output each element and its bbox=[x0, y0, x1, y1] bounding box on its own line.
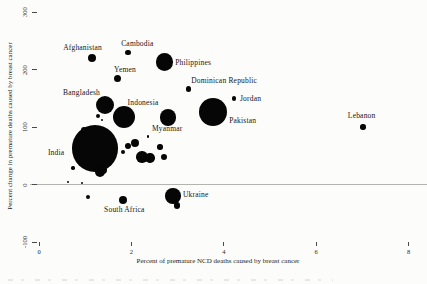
y-tick-label-0: 0 bbox=[21, 183, 28, 186]
bubble-unlabeled-11 bbox=[161, 154, 167, 160]
label-bangladesh: Bangladesh bbox=[63, 89, 100, 97]
bubble-unlabeled-8 bbox=[121, 150, 125, 154]
bubble-unlabeled-7 bbox=[157, 144, 162, 149]
bubble-unlabeled-4 bbox=[147, 135, 150, 138]
bubble-lebanon bbox=[360, 124, 365, 129]
zero-reference-line bbox=[30, 184, 427, 185]
x-tick-label-8: 8 bbox=[407, 248, 410, 255]
x-tick-mark-0 bbox=[39, 242, 40, 246]
bubble-unlabeled-15 bbox=[67, 181, 69, 183]
bubble-unlabeled-17 bbox=[86, 195, 90, 199]
bubble-yemen bbox=[114, 75, 121, 82]
label-india: India bbox=[48, 149, 64, 157]
bubble-india bbox=[72, 125, 119, 172]
bubble-unlabeled-12 bbox=[71, 166, 74, 169]
y-tick-mark-200 bbox=[32, 69, 37, 70]
bubble-unlabeled-6 bbox=[125, 143, 132, 150]
x-tick-label-4: 4 bbox=[222, 248, 225, 255]
bubble-unlabeled-5 bbox=[131, 139, 139, 147]
bubble-myanmar bbox=[160, 109, 177, 126]
label-myanmar: Myanmar bbox=[152, 125, 183, 133]
bubble-chart: Percent change in premature deaths cause… bbox=[0, 0, 427, 284]
y-tick-mark-0 bbox=[32, 184, 37, 185]
x-tick-mark-2 bbox=[131, 242, 132, 246]
cropped-caption-artifact bbox=[8, 279, 333, 281]
x-axis-title: Percent of premature NCD deaths caused b… bbox=[137, 257, 300, 265]
label-south-africa: South Africa bbox=[104, 206, 145, 214]
y-tick-mark-300 bbox=[32, 12, 37, 13]
y-tick-label--100: -100 bbox=[21, 236, 28, 248]
bubble-jordan bbox=[232, 96, 237, 101]
x-tick-label-0: 0 bbox=[37, 248, 40, 255]
y-tick-label-200: 200 bbox=[21, 65, 28, 75]
x-tick-mark-4 bbox=[223, 242, 224, 246]
bubble-pakistan bbox=[199, 98, 227, 126]
label-afghanistan: Afghanistan bbox=[63, 44, 102, 52]
label-pakistan: Pakistan bbox=[229, 117, 256, 125]
x-tick-mark-6 bbox=[316, 242, 317, 246]
label-cambodia: Cambodia bbox=[121, 40, 153, 48]
bubble-bangladesh bbox=[96, 96, 115, 115]
bubble-unlabeled-18 bbox=[174, 202, 181, 209]
x-tick-label-2: 2 bbox=[130, 248, 133, 255]
label-philippines: Philippines bbox=[175, 59, 211, 67]
bubble-cambodia bbox=[125, 50, 130, 55]
label-lebanon: Lebanon bbox=[348, 112, 376, 120]
y-tick-mark--100 bbox=[32, 242, 37, 243]
bubble-ukraine bbox=[165, 188, 180, 203]
x-tick-label-6: 6 bbox=[315, 248, 318, 255]
label-indonesia: Indonesia bbox=[128, 99, 159, 107]
bubble-dominican-republic bbox=[186, 86, 191, 91]
bubble-indonesia bbox=[113, 106, 135, 128]
x-tick-mark-8 bbox=[408, 242, 409, 246]
label-yemen: Yemen bbox=[114, 66, 136, 74]
bubble-unlabeled-1 bbox=[96, 114, 101, 119]
bubble-unlabeled-3 bbox=[81, 127, 87, 133]
bubble-unlabeled-16 bbox=[81, 182, 83, 184]
y-tick-mark-100 bbox=[32, 127, 37, 128]
y-tick-label-300: 300 bbox=[21, 7, 28, 17]
bubble-south-africa bbox=[119, 196, 128, 205]
y-axis-title: Percent change in premature deaths cause… bbox=[6, 42, 14, 210]
bubble-philippines bbox=[156, 53, 173, 70]
bubble-unlabeled-2 bbox=[101, 119, 104, 122]
figure-page: { "figure": { "background": "#fcfcfa", "… bbox=[0, 0, 427, 284]
y-tick-label-100: 100 bbox=[21, 122, 28, 132]
label-dominican-republic: Dominican Republic bbox=[191, 77, 257, 85]
bubble-unlabeled-14 bbox=[95, 167, 105, 177]
label-jordan: Jordan bbox=[240, 95, 261, 103]
bubble-afghanistan bbox=[88, 54, 96, 62]
label-ukraine: Ukraine bbox=[183, 191, 209, 199]
bubble-unlabeled-10 bbox=[145, 153, 154, 162]
